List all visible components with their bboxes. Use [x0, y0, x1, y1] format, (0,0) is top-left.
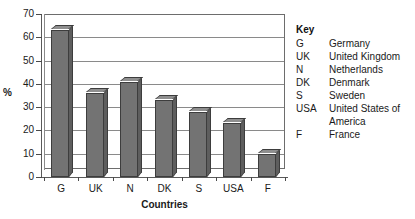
y-axis-tick-labels: 706050403020100 [8, 0, 34, 219]
y-tick-mark [36, 107, 42, 108]
legend-code: F [296, 128, 324, 141]
bar-side-face [241, 118, 245, 177]
bar-side-face [138, 76, 142, 177]
bar-body [223, 123, 241, 177]
legend-code: UK [296, 50, 324, 63]
bar-chart: 706050403020100 % Countries GUKNDKSUSAF [0, 0, 288, 219]
y-tick-label: 0 [10, 172, 34, 182]
legend-name: United States of [329, 102, 415, 115]
x-tick-mark [113, 177, 114, 181]
y-tick-label: 20 [10, 125, 34, 135]
legend-name-continuation: America [296, 115, 415, 128]
y-tick-label: 30 [10, 102, 34, 112]
x-tick-mark [78, 177, 79, 181]
legend-code: DK [296, 76, 324, 89]
y-tick-mark [36, 130, 42, 131]
y-tick-mark [36, 154, 42, 155]
legend-entry-DK: DKDenmark [296, 76, 415, 89]
x-axis-title: Countries [44, 199, 285, 210]
legend-name: France [329, 128, 415, 141]
x-tick-mark [285, 177, 286, 181]
legend-code: G [296, 37, 324, 50]
chart-screenshot: 706050403020100 % Countries GUKNDKSUSAF … [0, 0, 415, 219]
legend-entry-G: GGermany [296, 37, 415, 50]
bar-side-face [104, 88, 108, 177]
bar-DK[interactable] [155, 14, 173, 177]
x-tick-mark [251, 177, 252, 181]
legend-name: United Kingdom [329, 50, 415, 63]
x-tick-mark [44, 177, 45, 181]
bar-front-face [155, 100, 173, 177]
x-tick-mark [216, 177, 217, 181]
legend: Key GGermanyUKUnited KingdomNNetherlands… [296, 23, 415, 141]
legend-code: USA [296, 102, 324, 115]
bar-body [155, 100, 173, 177]
y-tick-label: 60 [10, 32, 34, 42]
bar-body [120, 82, 138, 177]
bar-body [258, 154, 276, 177]
x-tick-mark [182, 177, 183, 181]
y-tick-mark [36, 14, 42, 15]
legend-entry-S: SSweden [296, 89, 415, 102]
legend-entries: GGermanyUKUnited KingdomNNetherlandsDKDe… [296, 37, 415, 141]
legend-name-continuation-text: America [329, 115, 366, 128]
bar-front-face [51, 30, 69, 177]
bar-G[interactable] [51, 14, 69, 177]
bar-front-face [120, 82, 138, 177]
legend-code: S [296, 89, 324, 102]
x-tick-label-F: F [248, 183, 288, 194]
legend-entry-F: FFrance [296, 128, 415, 141]
bar-S[interactable] [189, 14, 207, 177]
bar-USA[interactable] [223, 14, 241, 177]
y-tick-mark [36, 61, 42, 62]
y-tick-label: 10 [10, 149, 34, 159]
y-tick-label: 40 [10, 79, 34, 89]
y-axis-line [41, 14, 42, 177]
bar-body [86, 93, 104, 177]
legend-name: Netherlands [329, 63, 415, 76]
bar-side-face [69, 25, 73, 177]
x-tick-mark [147, 177, 148, 181]
y-tick-mark [36, 37, 42, 38]
bar-front-face [189, 112, 207, 177]
bar-body [51, 30, 69, 177]
y-axis-title: % [3, 88, 12, 98]
legend-name: Denmark [329, 76, 415, 89]
y-tick-label: 70 [10, 9, 34, 19]
legend-name: Sweden [329, 89, 415, 102]
bar-UK[interactable] [86, 14, 104, 177]
bar-front-face [258, 154, 276, 177]
legend-name: Germany [329, 37, 415, 50]
y-tick-label: 50 [10, 56, 34, 66]
y-tick-mark [36, 84, 42, 85]
bar-side-face [207, 107, 211, 177]
y-tick-mark [36, 177, 42, 178]
legend-title: Key [296, 23, 415, 36]
legend-code: N [296, 63, 324, 76]
legend-entry-N: NNetherlands [296, 63, 415, 76]
bar-front-face [86, 93, 104, 177]
legend-entry-UK: UKUnited Kingdom [296, 50, 415, 63]
bar-front-face [223, 123, 241, 177]
bar-series [45, 14, 285, 177]
bar-F[interactable] [258, 14, 276, 177]
bar-N[interactable] [120, 14, 138, 177]
bar-body [189, 112, 207, 177]
legend-entry-USA: USAUnited States of [296, 102, 415, 115]
bar-side-face [173, 95, 177, 177]
bar-side-face [276, 149, 280, 177]
